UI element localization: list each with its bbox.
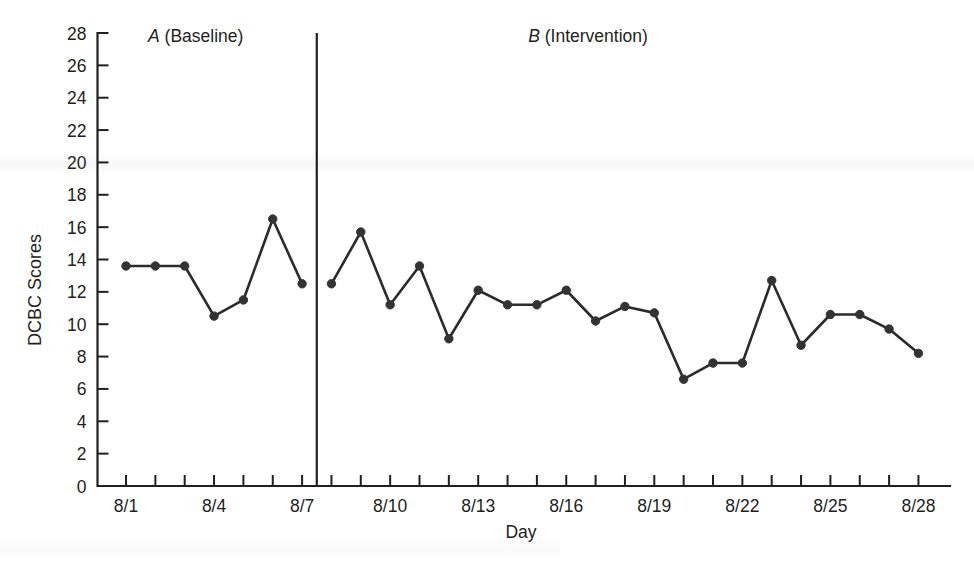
- x-tick-label: 8/4: [202, 496, 227, 516]
- data-point: [533, 301, 541, 309]
- data-point: [856, 310, 864, 318]
- y-tick-label: 26: [67, 56, 86, 76]
- phase-a-text: (Baseline): [160, 26, 244, 46]
- data-point: [210, 312, 218, 320]
- x-tick-label: 8/19: [637, 496, 671, 516]
- data-point: [562, 286, 570, 294]
- phase-label-a: A (Baseline): [147, 26, 243, 46]
- data-point: [357, 228, 365, 236]
- data-point: [181, 262, 189, 270]
- data-point: [269, 215, 277, 223]
- x-tick-label: 8/10: [373, 496, 407, 516]
- y-tick-label: 12: [67, 282, 86, 302]
- data-point: [885, 325, 893, 333]
- y-tick-label: 28: [67, 24, 86, 44]
- x-tick-label: 8/28: [901, 496, 935, 516]
- y-axis-ticks: [98, 33, 109, 486]
- data-point: [474, 286, 482, 294]
- x-tick-label: 8/13: [461, 496, 495, 516]
- data-point: [768, 276, 776, 284]
- x-tick-label: 8/7: [290, 496, 314, 516]
- data-point: [122, 262, 130, 270]
- series-baseline: [122, 215, 306, 320]
- data-point: [239, 296, 247, 304]
- y-tick-label: 4: [77, 412, 87, 432]
- data-point: [914, 349, 922, 357]
- data-point: [591, 317, 599, 325]
- data-point: [298, 280, 306, 288]
- y-tick-label: 16: [67, 218, 86, 238]
- phase-b-letter: B: [528, 26, 540, 46]
- data-point: [386, 301, 394, 309]
- x-axis-ticks: [126, 475, 918, 486]
- x-axis-tick-labels: 8/18/48/78/108/138/168/198/228/258/28: [114, 496, 936, 516]
- phase-a-letter: A: [147, 26, 160, 46]
- data-point: [445, 335, 453, 343]
- data-point: [826, 310, 834, 318]
- y-axis-tick-labels: 0246810121416182022242628: [67, 24, 87, 497]
- data-point: [415, 262, 423, 270]
- x-tick-label: 8/16: [549, 496, 583, 516]
- y-axis-label: DCBC Scores: [25, 234, 45, 346]
- data-point: [503, 301, 511, 309]
- data-point: [621, 302, 629, 310]
- y-tick-label: 6: [77, 379, 87, 399]
- y-tick-label: 18: [67, 185, 86, 205]
- x-tick-label: 8/1: [114, 496, 138, 516]
- data-point: [738, 359, 746, 367]
- phase-label-b: B (Intervention): [528, 26, 648, 46]
- y-tick-label: 8: [77, 347, 87, 367]
- data-point: [797, 341, 805, 349]
- y-tick-label: 0: [77, 477, 87, 497]
- data-point: [151, 262, 159, 270]
- data-point: [679, 375, 687, 383]
- chart-axes: [98, 33, 951, 486]
- figure-container: DCBC Scores 0246810121416182022242628 8/…: [0, 0, 974, 567]
- data-point: [709, 359, 717, 367]
- phase-b-text: (Intervention): [540, 26, 648, 46]
- data-point: [650, 309, 658, 317]
- series-intervention: [327, 228, 922, 384]
- y-tick-label: 20: [67, 153, 87, 173]
- y-tick-label: 10: [67, 315, 87, 335]
- x-tick-label: 8/22: [725, 496, 759, 516]
- y-tick-label: 24: [67, 88, 87, 108]
- x-tick-label: 8/25: [813, 496, 847, 516]
- x-axis-label: Day: [505, 522, 536, 542]
- line-chart: DCBC Scores 0246810121416182022242628 8/…: [0, 0, 974, 567]
- data-series-group: [122, 215, 923, 384]
- y-tick-label: 2: [77, 444, 87, 464]
- data-point: [327, 280, 335, 288]
- y-tick-label: 14: [67, 250, 87, 270]
- y-tick-label: 22: [67, 121, 86, 141]
